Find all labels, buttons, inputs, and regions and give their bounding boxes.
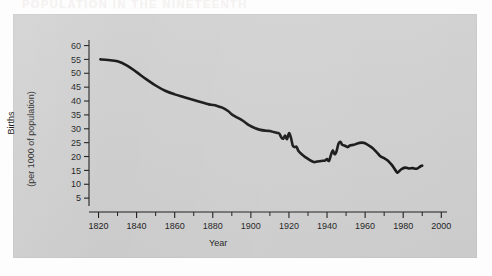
- page-bleedthrough-text: POPULATION IN THE NINETEENTH: [22, 0, 442, 12]
- y-tick-label: 40: [71, 96, 81, 106]
- y-tick-label: 35: [71, 110, 81, 120]
- data-series-birth-rate: [100, 59, 422, 172]
- chart-panel: Births (per 1000 of population) Year 510…: [13, 14, 477, 258]
- y-tick-label: 45: [71, 82, 81, 92]
- x-tick-label: 1820: [89, 221, 109, 231]
- x-tick-label: 1920: [279, 221, 299, 231]
- y-tick-label: 5: [76, 193, 81, 203]
- x-tick-label: 1840: [127, 221, 147, 231]
- y-tick-label: 15: [71, 166, 81, 176]
- y-tick-label: 10: [71, 179, 81, 189]
- x-tick-label: 1980: [393, 221, 413, 231]
- birth-rate-line: [100, 59, 422, 172]
- x-tick-label: 1940: [317, 221, 337, 231]
- x-axis: 1820184018601880190019201940196019802000: [89, 212, 452, 231]
- x-tick-label: 1960: [355, 221, 375, 231]
- line-chart-svg: 51015202530354045505560 1820184018601880…: [13, 14, 477, 258]
- x-tick-label: 1880: [203, 221, 223, 231]
- y-axis: 51015202530354045505560: [71, 40, 89, 206]
- x-tick-label: 1860: [165, 221, 185, 231]
- x-tick-label: 1900: [241, 221, 261, 231]
- y-tick-label: 50: [71, 68, 81, 78]
- y-tick-label: 30: [71, 124, 81, 134]
- x-tick-label: 2000: [431, 221, 451, 231]
- y-tick-label: 20: [71, 152, 81, 162]
- y-tick-label: 25: [71, 138, 81, 148]
- page-canvas: POPULATION IN THE NINETEENTH Births (per…: [0, 0, 492, 276]
- y-tick-label: 60: [71, 41, 81, 51]
- y-tick-label: 55: [71, 55, 81, 65]
